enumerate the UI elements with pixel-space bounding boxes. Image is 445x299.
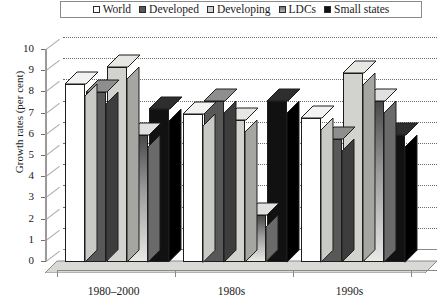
bar-side bbox=[169, 109, 181, 262]
bar-world-1 bbox=[183, 114, 203, 262]
bar-side bbox=[85, 84, 97, 262]
bar-top bbox=[183, 101, 203, 113]
black-square-icon bbox=[324, 6, 331, 13]
legend-item-developed: Developed bbox=[139, 4, 199, 15]
bar-side bbox=[245, 120, 257, 262]
y-tick-label: 7 bbox=[18, 108, 34, 117]
legend-label-small-states: Small states bbox=[334, 4, 389, 15]
y-tick-label: 2 bbox=[18, 214, 34, 223]
x-tick-label: 1990s bbox=[305, 285, 395, 297]
y-tick-label: 9 bbox=[18, 65, 34, 74]
bar-side bbox=[287, 101, 299, 262]
bar-side bbox=[405, 135, 417, 262]
legend-label-developing: Developing bbox=[217, 4, 271, 15]
legend-item-developing: Developing bbox=[207, 4, 271, 15]
mid-gray-square-icon bbox=[279, 6, 286, 13]
legend-label-developed: Developed bbox=[149, 4, 199, 15]
y-tick-label: 1 bbox=[18, 235, 34, 244]
white-square-icon bbox=[93, 6, 100, 13]
x-tick-mark bbox=[57, 270, 58, 277]
y-tick-label: 0 bbox=[18, 256, 34, 265]
bar-side bbox=[266, 215, 278, 262]
chart-legend: World Developed Developing LDCs Small st… bbox=[60, 1, 422, 18]
light-gray-square-icon bbox=[207, 6, 214, 13]
dark-gray-square-icon bbox=[139, 6, 146, 13]
y-tick-label: 4 bbox=[18, 171, 34, 180]
legend-item-world: World bbox=[93, 4, 131, 15]
x-tick-label: 1980–2000 bbox=[69, 285, 159, 297]
x-axis-labels: 1980–20001980s1990s bbox=[0, 281, 445, 299]
bar-world-0 bbox=[65, 84, 85, 262]
legend-label-ldcs: LDCs bbox=[289, 4, 316, 15]
bar-top bbox=[343, 60, 363, 72]
bar-side bbox=[106, 92, 118, 262]
bar-side bbox=[224, 101, 236, 262]
x-tick-label: 1980s bbox=[187, 285, 277, 297]
bar-series-group bbox=[45, 49, 437, 261]
bar-top bbox=[301, 105, 321, 117]
y-tick-label: 10 bbox=[18, 44, 34, 53]
bar-top bbox=[149, 96, 169, 108]
gridline bbox=[63, 37, 437, 38]
bar-face bbox=[301, 118, 321, 262]
bar-face bbox=[65, 84, 85, 262]
legend-label-world: World bbox=[103, 4, 131, 15]
bar-side bbox=[363, 73, 375, 262]
bar-side bbox=[384, 101, 396, 262]
legend-item-small-states: Small states bbox=[324, 4, 389, 15]
bar-side bbox=[321, 118, 333, 262]
bar-chart: Growth rates (per cent) 109876543210 198… bbox=[0, 38, 445, 288]
bar-side bbox=[342, 139, 354, 262]
legend-item-ldcs: LDCs bbox=[279, 4, 316, 15]
bar-face bbox=[183, 114, 203, 262]
bar-top bbox=[65, 71, 85, 83]
bar-top bbox=[267, 88, 287, 100]
bar-side bbox=[148, 135, 160, 262]
bar-side bbox=[203, 114, 215, 262]
bar-top bbox=[204, 88, 224, 100]
bar-world-2 bbox=[301, 118, 321, 262]
y-tick-label: 3 bbox=[18, 192, 34, 201]
y-tick-label: 8 bbox=[18, 86, 34, 95]
y-tick-label: 6 bbox=[18, 129, 34, 138]
bar-side bbox=[127, 67, 139, 262]
bar-top bbox=[107, 54, 127, 66]
y-tick-label: 5 bbox=[18, 150, 34, 159]
